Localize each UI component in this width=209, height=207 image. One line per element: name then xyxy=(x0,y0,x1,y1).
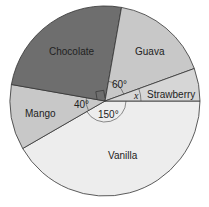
angle-vanilla: 150° xyxy=(98,109,119,120)
pie-chart: Chocolate Guava Strawberry Mango Vanilla… xyxy=(0,0,209,207)
label-vanilla: Vanilla xyxy=(108,150,138,161)
label-strawberry: Strawberry xyxy=(147,89,195,100)
angle-mango: 40° xyxy=(74,99,89,110)
angle-strawberry: x xyxy=(133,90,139,101)
label-guava: Guava xyxy=(135,46,165,57)
label-chocolate: Chocolate xyxy=(49,46,94,57)
label-mango: Mango xyxy=(25,108,56,119)
angle-guava: 60° xyxy=(112,79,127,90)
